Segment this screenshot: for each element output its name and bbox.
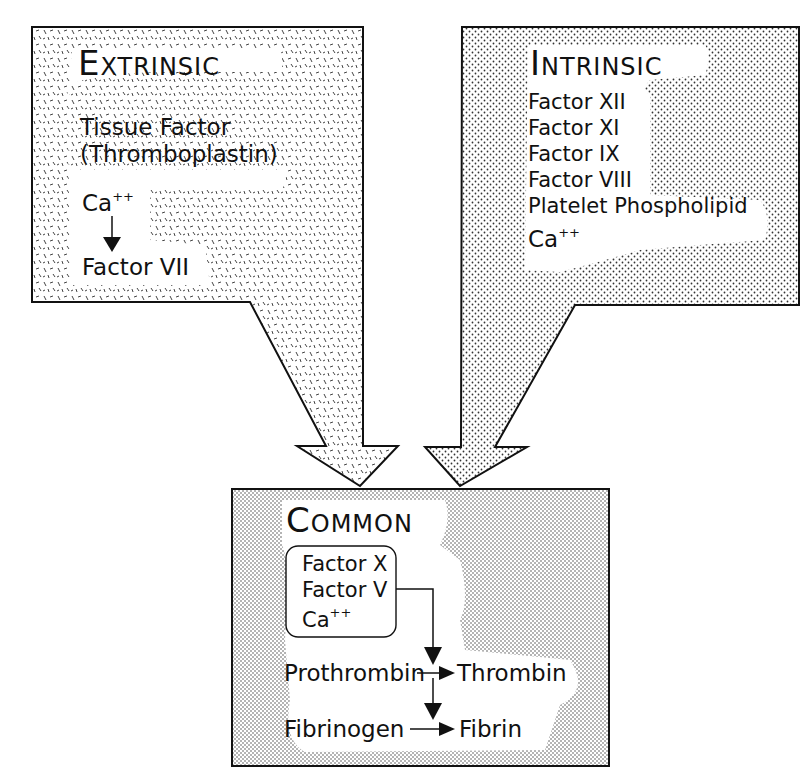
- intrinsic-title: Intrinsic: [530, 46, 662, 80]
- calcium-label: Ca: [82, 190, 112, 216]
- calcium-label: Ca: [528, 226, 558, 252]
- calcium-charge: ++: [112, 189, 134, 204]
- thrombin-label: Thrombin: [457, 662, 567, 685]
- prothrombin-label: Prothrombin: [284, 662, 425, 685]
- fibrinogen-label: Fibrinogen: [284, 718, 404, 741]
- intrinsic-item: Factor XI: [528, 118, 620, 139]
- intrinsic-calcium: Ca++: [528, 226, 580, 251]
- intrinsic-item: Factor VIII: [528, 170, 632, 191]
- calcium-charge: ++: [330, 605, 352, 620]
- factor-x-label: Factor X: [302, 554, 387, 575]
- intrinsic-item: Factor IX: [528, 144, 620, 165]
- common-calcium: Ca++: [302, 606, 351, 631]
- calcium-label: Ca: [302, 608, 330, 632]
- intrinsic-item: Platelet Phospholipid: [528, 196, 748, 217]
- factor-v-label: Factor V: [302, 580, 387, 601]
- extrinsic-calcium: Ca++: [82, 190, 134, 215]
- intrinsic-item: Factor XII: [528, 92, 626, 113]
- calcium-charge: ++: [558, 225, 580, 240]
- factor-vii-label: Factor VII: [82, 256, 189, 279]
- fibrin-label: Fibrin: [459, 718, 522, 741]
- common-title: Common: [286, 503, 413, 537]
- extrinsic-title: Extrinsic: [78, 46, 220, 80]
- tissue-factor-label: Tissue Factor: [80, 116, 230, 139]
- thromboplastin-label: (Thromboplastin): [80, 143, 278, 166]
